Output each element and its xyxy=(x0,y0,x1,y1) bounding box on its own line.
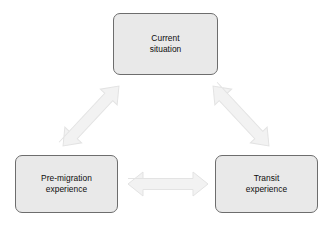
node-transit-label: Transit experience xyxy=(242,173,291,195)
node-current-situation-label: Current situation xyxy=(146,33,186,55)
node-current-situation[interactable]: Current situation xyxy=(113,13,218,75)
node-pre-migration-label: Pre-migration experience xyxy=(37,173,96,195)
diagram-canvas: Current situation Pre-migration experien… xyxy=(0,0,331,225)
connector-pre-migration-to-transit xyxy=(128,172,208,196)
connector-current-situation-to-transit xyxy=(205,78,278,154)
node-pre-migration[interactable]: Pre-migration experience xyxy=(15,155,118,213)
node-transit[interactable]: Transit experience xyxy=(215,155,318,213)
connector-pre-migration-to-current-situation xyxy=(55,78,128,154)
